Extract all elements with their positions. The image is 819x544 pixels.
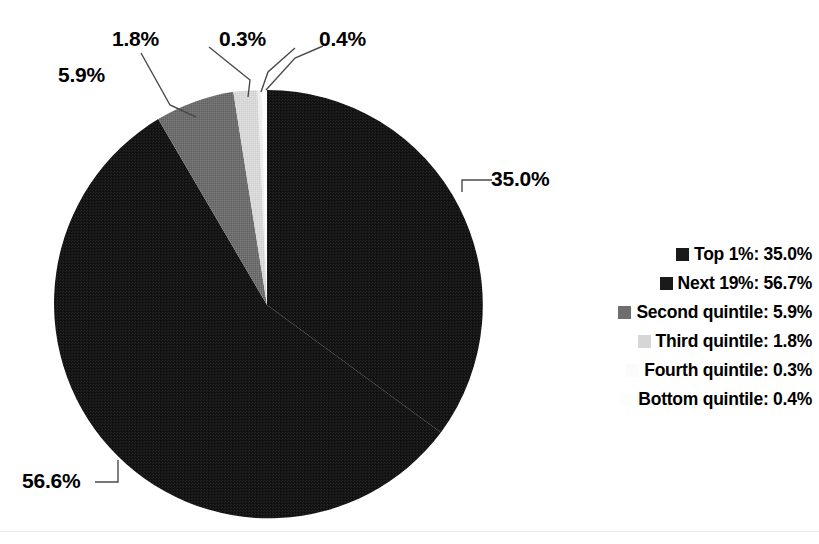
pie-label-third-quintile: 1.8% bbox=[112, 27, 159, 51]
legend-item-second-quintile[interactable]: Second quintile: 5.9% bbox=[560, 298, 812, 327]
legend-label: Bottom quintile: 0.4% bbox=[638, 389, 812, 410]
pie-label-fourth-quintile: 0.3% bbox=[219, 27, 266, 51]
chart-legend: Top 1%: 35.0% Next 19%: 56.7% Second qui… bbox=[560, 240, 812, 414]
pie-label-bottom-quintile: 0.4% bbox=[319, 27, 366, 51]
pie-label-second-quintile: 5.9% bbox=[58, 63, 105, 87]
legend-item-third-quintile[interactable]: Third quintile: 1.8% bbox=[560, 327, 812, 356]
legend-label: Top 1%: 35.0% bbox=[694, 244, 812, 265]
legend-item-top-1-percent[interactable]: Top 1%: 35.0% bbox=[560, 240, 812, 269]
legend-item-fourth-quintile[interactable]: Fourth quintile: 0.3% bbox=[560, 356, 812, 385]
pie-chart-figure: 35.0% 56.6% 5.9% 1.8% 0.3% 0.4% Top 1%: … bbox=[0, 0, 819, 544]
legend-label: Third quintile: 1.8% bbox=[656, 331, 812, 352]
legend-label: Second quintile: 5.9% bbox=[636, 302, 812, 323]
pie-label-next-19-percent: 56.6% bbox=[22, 469, 81, 493]
legend-swatch-icon bbox=[626, 364, 639, 377]
legend-swatch-icon bbox=[676, 248, 689, 261]
legend-swatch-icon bbox=[618, 306, 631, 319]
leader-line-next-19-percent bbox=[95, 460, 118, 482]
legend-item-next-19-percent[interactable]: Next 19%: 56.7% bbox=[560, 269, 812, 298]
leader-line-fourth-quintile bbox=[261, 48, 295, 92]
leader-line-third-quintile bbox=[209, 47, 250, 97]
legend-label: Next 19%: 56.7% bbox=[678, 273, 812, 294]
legend-item-bottom-quintile[interactable]: Bottom quintile: 0.4% bbox=[560, 385, 812, 414]
legend-swatch-icon bbox=[660, 277, 673, 290]
legend-label: Fourth quintile: 0.3% bbox=[644, 360, 812, 381]
bottom-divider bbox=[0, 531, 819, 532]
leader-line-top-1-percent bbox=[462, 180, 492, 192]
pie-label-top-1-percent: 35.0% bbox=[491, 167, 550, 191]
leader-line-bottom-quintile bbox=[266, 46, 323, 90]
legend-swatch-icon bbox=[638, 335, 651, 348]
legend-swatch-icon bbox=[620, 393, 633, 406]
